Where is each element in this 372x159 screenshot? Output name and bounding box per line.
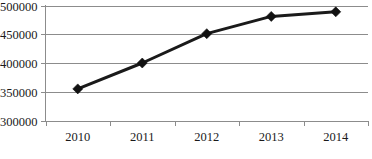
x-tick-label-2011: 2011 [130, 130, 155, 144]
y-tick-label-350000: 350000 [0, 86, 38, 100]
chart-canvas: 300000350000400000450000500000 201020112… [0, 0, 372, 159]
data-point-markers [73, 7, 341, 94]
x-tick-label-2010: 2010 [65, 130, 90, 144]
data-point-2011 [137, 58, 147, 68]
data-point-2012 [202, 29, 212, 39]
x-axis-tick-labels: 20102011201220132014 [65, 130, 349, 144]
y-tick-label-300000: 300000 [0, 115, 38, 129]
y-tick-label-450000: 450000 [0, 28, 38, 42]
data-point-2014 [331, 7, 341, 17]
y-tick-label-400000: 400000 [0, 57, 38, 71]
y-tick-mark-group [41, 7, 46, 122]
x-tick-label-2014: 2014 [323, 130, 349, 144]
data-series-line [78, 12, 336, 89]
gridline-group [46, 7, 369, 122]
y-tick-label-500000: 500000 [0, 0, 38, 14]
x-tick-label-2013: 2013 [259, 130, 284, 144]
line-chart: 300000350000400000450000500000 201020112… [0, 0, 372, 159]
y-axis-tick-labels: 300000350000400000450000500000 [0, 0, 38, 129]
x-tick-label-2012: 2012 [194, 130, 219, 144]
data-point-2013 [266, 11, 276, 21]
